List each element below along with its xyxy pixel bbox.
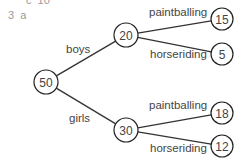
tree-nodes: 5020155301812: [34, 8, 233, 157]
node-girls-horseriding: 12: [211, 135, 233, 157]
branch-label: paintballing: [149, 99, 207, 111]
node-boys-paintballing: 15: [211, 8, 233, 30]
branch-label: horseriding: [150, 142, 207, 154]
node-boys: 20: [114, 23, 138, 47]
tree-branch-line: [138, 21, 211, 33]
node-value: 30: [119, 124, 133, 138]
node-boys-horseriding: 5: [211, 43, 233, 65]
node-value: 20: [119, 29, 133, 43]
tree-branch-line: [138, 115, 211, 128]
frequency-tree-diagram: boyspaintballinghorseridinggirlspaintbal…: [0, 0, 243, 158]
node-value: 5: [219, 48, 226, 62]
node-girls-paintballing: 18: [211, 102, 233, 124]
node-value: 18: [215, 107, 229, 121]
branch-label: paintballing: [149, 6, 207, 18]
branch-label: boys: [66, 43, 91, 55]
node-girls: 30: [114, 118, 138, 142]
branch-label: horseriding: [150, 48, 207, 60]
node-value: 15: [215, 13, 229, 27]
node-value: 50: [39, 76, 53, 90]
branch-label: girls: [69, 112, 90, 124]
root-node-total: 50: [34, 70, 58, 94]
node-value: 12: [215, 140, 229, 154]
